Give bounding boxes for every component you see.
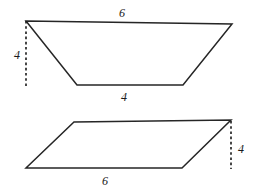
parallelogram-shape (26, 120, 231, 169)
parallelogram-base-label: 6 (102, 175, 108, 187)
trapezoid-shape (26, 21, 232, 88)
trapezoid-outline (26, 21, 232, 85)
geometry-figure: 6 4 4 4 6 (0, 0, 257, 194)
trapezoid-bottom-base-label: 4 (121, 91, 127, 103)
parallelogram-outline (26, 120, 231, 168)
parallelogram-height-label: 4 (238, 143, 244, 155)
trapezoid-top-base-label: 6 (119, 7, 125, 19)
trapezoid-height-label: 4 (14, 49, 20, 61)
figure-canvas (0, 0, 257, 194)
